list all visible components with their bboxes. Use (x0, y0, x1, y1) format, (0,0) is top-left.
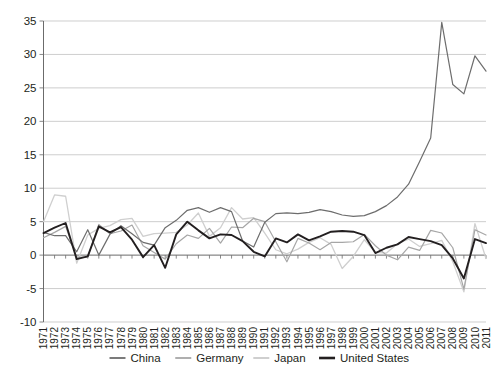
x-tick-label: 1995 (304, 327, 315, 350)
x-tick-label: 1994 (293, 327, 304, 350)
y-tick-label: 25 (24, 82, 37, 94)
x-tick-label: 1989 (237, 327, 248, 350)
legend-label-united-states: United States (340, 352, 409, 364)
line-chart: -10-505101520253035 19711972197319741975… (0, 0, 498, 384)
x-tick-label: 1998 (337, 327, 348, 350)
x-tick-label: 1988 (226, 327, 237, 350)
x-tick-labels-group: 1971197219731974197519761977197819791980… (38, 327, 492, 350)
y-tick-label: 5 (30, 216, 36, 228)
x-tick-label: 1997 (326, 327, 337, 350)
x-tick-label: 1981 (149, 327, 160, 350)
legend-label-japan: Japan (274, 352, 305, 364)
data-series-group (44, 22, 487, 292)
y-tick-label: 35 (24, 15, 37, 27)
x-tick-label: 1972 (49, 327, 60, 350)
x-tick-label: 2005 (414, 327, 425, 350)
x-tick-label: 2003 (392, 327, 403, 350)
x-tick-label: 1996 (315, 327, 326, 350)
x-tick-label: 2000 (359, 327, 370, 350)
y-tick-label: 10 (24, 182, 37, 194)
y-tick-label: 20 (24, 115, 37, 127)
x-tick-label: 1990 (248, 327, 259, 350)
gridlines-group (44, 21, 487, 322)
x-tick-label: 2004 (403, 327, 414, 350)
y-tick-label: 15 (24, 149, 37, 161)
y-tick-labels-group: -10-505101520253035 (20, 15, 37, 328)
x-tick-label: 1986 (204, 327, 215, 350)
x-tick-label: 1974 (71, 327, 82, 350)
x-tick-label: 2011 (481, 327, 492, 349)
x-tick-label: 2008 (447, 327, 458, 350)
y-axis-group (40, 21, 44, 322)
series-line-china (44, 22, 487, 255)
legend-label-germany: Germany (196, 352, 244, 364)
x-tick-label: 1983 (171, 327, 182, 350)
x-tick-label: 1991 (259, 327, 270, 350)
x-tick-label: 2001 (370, 327, 381, 350)
x-tick-label: 1992 (270, 327, 281, 350)
y-tick-label: -5 (26, 283, 36, 295)
y-tick-label: 30 (24, 48, 37, 60)
legend-label-china: China (131, 352, 162, 364)
series-line-japan (44, 195, 487, 292)
chart-legend: ChinaGermanyJapanUnited States (110, 352, 410, 364)
x-tick-label: 1982 (160, 327, 171, 350)
y-tick-label: 0 (30, 249, 36, 261)
x-tick-label: 2002 (381, 327, 392, 350)
x-tick-label: 1971 (38, 327, 49, 350)
x-tick-label: 1987 (215, 327, 226, 350)
chart-canvas: -10-505101520253035 19711972197319741975… (0, 0, 498, 384)
x-tick-label: 1993 (281, 327, 292, 350)
x-tick-label: 1999 (348, 327, 359, 350)
x-tick-label: 1976 (93, 327, 104, 350)
x-tick-label: 1979 (127, 327, 138, 350)
x-tick-label: 1985 (193, 327, 204, 350)
x-tick-label: 1984 (182, 327, 193, 350)
x-tick-label: 1975 (82, 327, 93, 350)
x-tick-label: 1980 (138, 327, 149, 350)
x-tick-label: 2006 (425, 327, 436, 350)
x-tick-label: 2009 (458, 327, 469, 350)
x-tick-label: 2010 (470, 327, 481, 350)
y-tick-label: -10 (20, 316, 37, 328)
x-tick-label: 1978 (116, 327, 127, 350)
series-line-germany (44, 218, 487, 289)
x-tick-label: 1973 (60, 327, 71, 350)
x-tick-label: 2007 (436, 327, 447, 350)
x-tick-label: 1977 (104, 327, 115, 350)
